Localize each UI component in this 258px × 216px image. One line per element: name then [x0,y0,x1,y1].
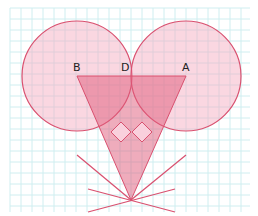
figure-canvas [0,0,258,216]
point-label-a: A [182,62,190,73]
geometry-figure: B D A [0,0,258,216]
triangle-abc [77,76,186,200]
point-label-d: D [121,62,129,73]
point-label-b: B [73,62,81,73]
triangle [77,76,186,200]
